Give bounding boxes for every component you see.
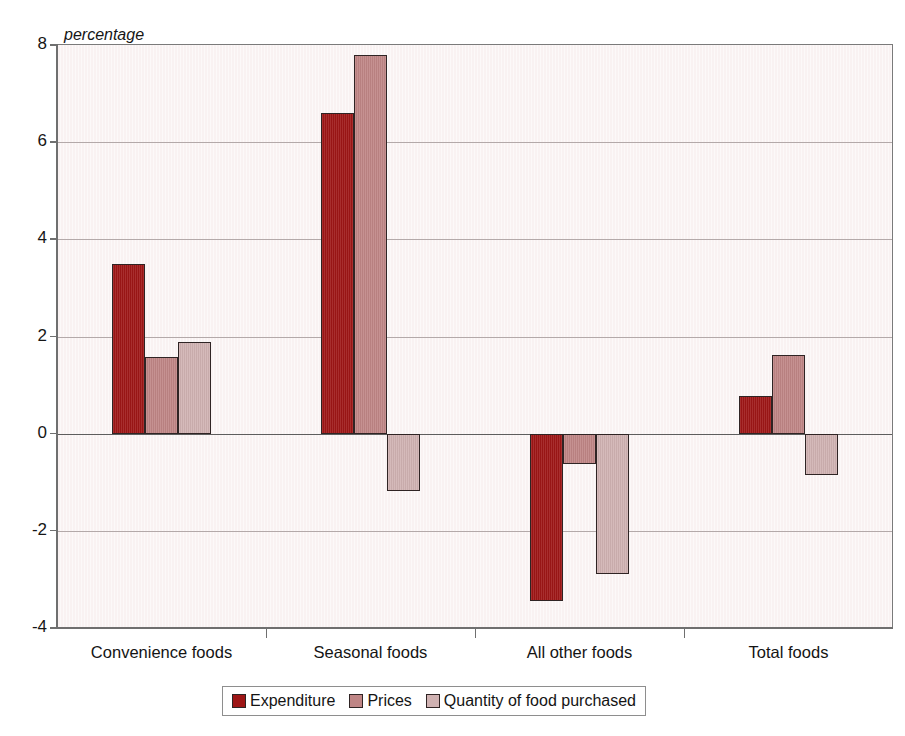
y-tick-mark-4 (50, 238, 57, 240)
legend-swatch-icon-quantity (426, 694, 440, 708)
bar-0-2 (178, 342, 211, 433)
bar-texture (740, 397, 771, 433)
bar-texture (773, 356, 804, 433)
bar-texture (179, 343, 210, 432)
legend-item-expenditure: Expenditure (232, 692, 335, 710)
y-tick-label--2: -2 (0, 520, 47, 540)
bar-1-0 (321, 113, 354, 434)
y-tick-label--4: -4 (0, 617, 47, 637)
gridline-4 (57, 239, 892, 240)
bar-2-1 (563, 434, 596, 464)
bar-texture (322, 114, 353, 433)
bar-1-2 (387, 434, 420, 491)
bar-0-1 (145, 357, 178, 434)
bar-texture (113, 265, 144, 433)
bar-texture (597, 435, 628, 573)
x-category-label-3: Total foods (749, 643, 829, 662)
bar-texture (806, 435, 837, 474)
x-tick-mark-2 (475, 627, 476, 638)
legend-item-prices: Prices (349, 692, 411, 710)
legend-label-quantity: Quantity of food purchased (444, 692, 636, 710)
gridline-2 (57, 337, 892, 338)
bar-1-1 (354, 55, 387, 434)
y-tick-mark-8 (50, 44, 57, 46)
y-tick-label-6: 6 (0, 131, 47, 151)
bar-chart: percentage 86420-2-4 Convenience foodsSe… (0, 0, 905, 736)
x-tick-mark-1 (266, 627, 267, 638)
legend-label-expenditure: Expenditure (250, 692, 335, 710)
legend-swatch-icon-prices (349, 694, 363, 708)
x-tick-mark-3 (684, 627, 685, 638)
chart-legend: Expenditure Prices Quantity of food purc… (222, 686, 646, 716)
bar-2-0 (530, 434, 563, 602)
legend-label-prices: Prices (367, 692, 411, 710)
bar-texture (531, 435, 562, 601)
bar-texture (564, 435, 595, 463)
bar-0-0 (112, 264, 145, 434)
x-category-label-2: All other foods (527, 643, 632, 662)
y-tick-mark--4 (50, 627, 57, 629)
y-tick-mark-2 (50, 336, 57, 338)
y-tick-label-0: 0 (0, 423, 47, 443)
y-tick-label-8: 8 (0, 34, 47, 54)
bar-3-2 (805, 434, 838, 475)
x-category-label-1: Seasonal foods (314, 643, 428, 662)
legend-item-quantity: Quantity of food purchased (426, 692, 636, 710)
bar-3-0 (739, 396, 772, 434)
legend-swatch-icon-expenditure (232, 694, 246, 708)
y-tick-mark-6 (50, 141, 57, 143)
bar-texture (388, 435, 419, 490)
x-category-label-0: Convenience foods (91, 643, 232, 662)
gridline-6 (57, 142, 892, 143)
bar-texture (355, 56, 386, 433)
plot-area (57, 44, 893, 627)
y-tick-mark--2 (50, 530, 57, 532)
bar-2-2 (596, 434, 629, 574)
gridline-0 (57, 434, 892, 436)
y-tick-label-4: 4 (0, 228, 47, 248)
y-axis-unit-label: percentage (64, 26, 144, 44)
bar-3-1 (772, 355, 805, 434)
bar-texture (146, 358, 177, 433)
y-tick-label-2: 2 (0, 326, 47, 346)
gridline--2 (57, 531, 892, 532)
y-tick-mark-0 (50, 433, 57, 435)
